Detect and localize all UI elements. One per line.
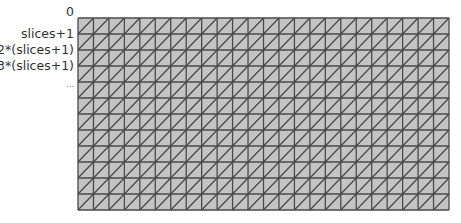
triangle-mesh-grid [0,0,461,223]
